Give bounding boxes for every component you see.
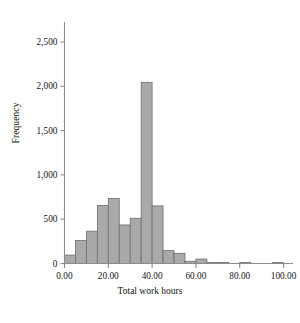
caption-fragment [4,310,184,321]
x-axis-tick-label: 60.00 [185,271,206,281]
x-axis-title: Total work hours [0,286,300,296]
x-axis-tick-label: 20.00 [98,271,119,281]
histogram-bar [196,259,207,263]
histogram-bar [152,206,163,264]
histogram-figure: 05001,0001,5002,0002,500 0.0020.0040.006… [0,0,300,323]
histogram-bar [141,82,152,263]
histogram-bars [65,82,284,263]
histogram-bar [108,198,119,263]
histogram-bar [86,231,97,263]
y-axis-tick-label: 1,500 [37,126,58,136]
x-axis-tick-label: 100.00 [271,271,297,281]
y-axis-tick-label: 500 [44,214,58,224]
histogram-bar [75,240,86,263]
y-axis-tick-label: 1,000 [37,170,58,180]
y-axis-title: Frequency [11,87,21,159]
histogram-bar [119,225,130,264]
histogram-bar [174,253,185,263]
histogram-bar [130,218,141,263]
x-axis-tick-label: 80.00 [229,271,250,281]
histogram-bar [97,205,108,263]
y-axis-tick-label: 2,000 [37,81,58,91]
histogram-bar [65,255,76,263]
x-axis-tick-label: 40.00 [142,271,163,281]
y-axis-tick-label: 0 [53,259,58,269]
histogram-bar [163,251,174,264]
plot-area-wrapper: 05001,0001,5002,0002,500 0.0020.0040.006… [0,0,300,323]
y-axis-tick-label: 2,500 [37,37,58,47]
x-axis-tick-label: 0.00 [56,271,72,281]
